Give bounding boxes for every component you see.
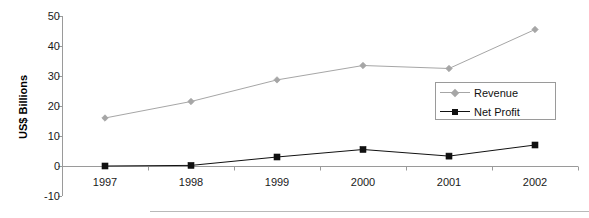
legend-item-revenue: Revenue [436, 83, 557, 102]
y-axis-tick-label: 20 [30, 100, 60, 112]
y-axis-tick-label: 40 [30, 40, 60, 52]
data-point-marker [446, 65, 452, 71]
data-point-marker [532, 142, 538, 148]
y-axis-tick-label: 50 [30, 10, 60, 22]
x-axis-tick-label: 1997 [93, 176, 117, 188]
legend-swatch-revenue [436, 83, 474, 102]
y-axis-tick-label: 30 [30, 70, 60, 82]
y-axis-tick-labels: 50403020100-10 [16, 0, 60, 218]
data-point-marker [446, 153, 452, 159]
data-point-marker [102, 163, 108, 169]
chart-container: US$ Billions 50403020100-10 199719981999… [0, 0, 589, 218]
series-line-net-profit [105, 145, 535, 166]
data-point-marker [274, 154, 280, 160]
legend-label-revenue: Revenue [474, 87, 518, 99]
data-point-marker [360, 62, 366, 68]
legend-label-net-profit: Net Profit [474, 106, 520, 118]
data-point-marker [102, 115, 108, 121]
data-point-marker [360, 147, 366, 153]
page-artifact-line [150, 211, 589, 212]
x-axis-tick-label: 2002 [523, 176, 547, 188]
y-axis-tick-label: 10 [30, 130, 60, 142]
x-axis-tick-label: 1999 [265, 176, 289, 188]
chart-legend: Revenue Net Profit [435, 82, 556, 120]
data-point-marker [188, 162, 194, 168]
data-point-marker [274, 77, 280, 83]
y-axis-tick-label: -10 [30, 190, 60, 202]
x-axis-tick-label: 2001 [437, 176, 461, 188]
x-axis-tick-label: 1998 [179, 176, 203, 188]
x-axis-tick-label: 2000 [351, 176, 375, 188]
diamond-marker-icon [451, 88, 459, 96]
y-axis-tick-label: 0 [30, 160, 60, 172]
legend-item-net-profit: Net Profit [436, 102, 557, 121]
legend-swatch-net-profit [436, 102, 474, 121]
square-marker-icon [452, 109, 458, 115]
data-point-marker [188, 98, 194, 104]
data-point-marker [532, 26, 538, 32]
